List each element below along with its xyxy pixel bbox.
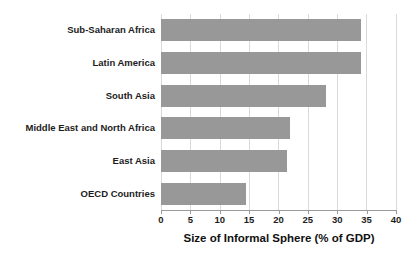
category-label: Sub-Saharan Africa [3,24,155,35]
tick-label: 10 [214,214,225,225]
category-label: Middle East and North Africa [3,122,155,133]
tick-label: 5 [188,214,193,225]
tick-label: 15 [244,214,255,225]
tick-label: 20 [273,214,284,225]
gridline [190,14,191,210]
tick-label: 25 [303,214,314,225]
gridline [161,14,162,210]
category-label: South Asia [3,90,155,101]
gridline [278,14,279,210]
gridline [366,14,367,210]
bar [161,183,246,205]
bar-fill [161,150,287,172]
tick-label: 0 [158,214,163,225]
bar-fill [161,117,290,139]
bar [161,52,361,74]
bar-fill [161,19,361,41]
bar [161,19,361,41]
gridline [249,14,250,210]
bar-fill [161,52,361,74]
category-label: Latin America [3,57,155,68]
gridline [337,14,338,210]
gridline [396,14,397,210]
tick-label: 35 [361,214,372,225]
bar [161,150,287,172]
plot-area [161,14,396,210]
bar-chart: Sub-Saharan AfricaLatin AmericaSouth Asi… [0,0,418,264]
gridline [308,14,309,210]
bar [161,85,326,107]
category-axis: Sub-Saharan AfricaLatin AmericaSouth Asi… [0,14,155,210]
x-axis-title: Size of Informal Sphere (% of GDP) [161,232,397,244]
tick-label: 30 [332,214,343,225]
bar-fill [161,85,326,107]
gridline [220,14,221,210]
category-label: East Asia [3,155,155,166]
tick-label: 40 [391,214,402,225]
bar [161,117,290,139]
bar-fill [161,183,246,205]
category-label: OECD Countries [3,188,155,199]
